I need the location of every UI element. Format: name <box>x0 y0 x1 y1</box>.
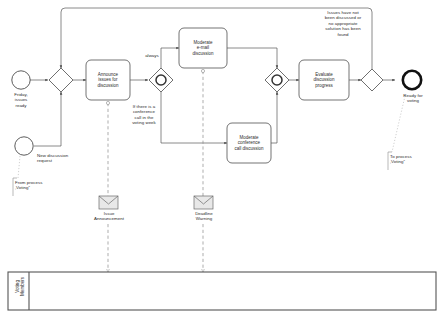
association-to-voting <box>392 96 405 152</box>
flow-label-loopback-condition: Issues have not been discussed or no app… <box>309 10 377 37</box>
task-moderate-email-label: Moderate e-mail discussion <box>179 28 227 68</box>
annotation-to-voting-label: To process ‚Voting“ <box>390 154 438 165</box>
start-event-new-discussion[interactable] <box>15 137 33 155</box>
start-event-friday[interactable] <box>12 71 30 89</box>
gateway-decision[interactable] <box>361 69 383 91</box>
message-deadline-warning-label: Deadline Warning <box>185 211 223 222</box>
lane-voting-members[interactable] <box>8 272 436 310</box>
flow-split-to-call <box>161 92 227 143</box>
end-event-ready-label: Ready for voting <box>391 93 435 104</box>
annotation-from-voting-label: From process ‚Voting“ <box>15 180 69 191</box>
msgflow-origin-dot-deadline <box>201 69 204 72</box>
gateway-merge[interactable] <box>49 68 73 92</box>
message-issue-announcement[interactable] <box>99 196 118 209</box>
flow-label-conference-condition: If there is a conference call in the vot… <box>124 104 164 126</box>
bpmn-diagram-canvas: Friday, issues ready New discussion requ… <box>0 0 444 318</box>
association-from-voting <box>18 156 20 178</box>
msgflow-origin-dot-issue <box>106 101 109 104</box>
start-event-new-discussion-label: New discussion request <box>37 153 99 164</box>
gateway-split-inner-icon <box>156 75 166 85</box>
end-event-ready-for-voting[interactable] <box>403 71 421 89</box>
flow-call-to-join <box>271 92 277 143</box>
message-issue-announcement-label: Issue Announcement <box>88 211 130 222</box>
flow-label-always: always <box>135 53 169 58</box>
task-evaluate-label: Evaluate discussion progress <box>299 60 349 100</box>
task-moderate-call-label: Moderate conference call discussion <box>227 123 271 163</box>
task-announce-label: Announce issues for discussion <box>86 60 130 100</box>
start-event-friday-label: Friday, issues ready <box>1 92 41 108</box>
message-deadline-warning[interactable] <box>194 196 213 209</box>
gateway-join-inner-icon <box>272 75 282 85</box>
flow-email-to-join <box>227 48 277 68</box>
lane-voting-members-label: Voting Members <box>15 271 26 301</box>
